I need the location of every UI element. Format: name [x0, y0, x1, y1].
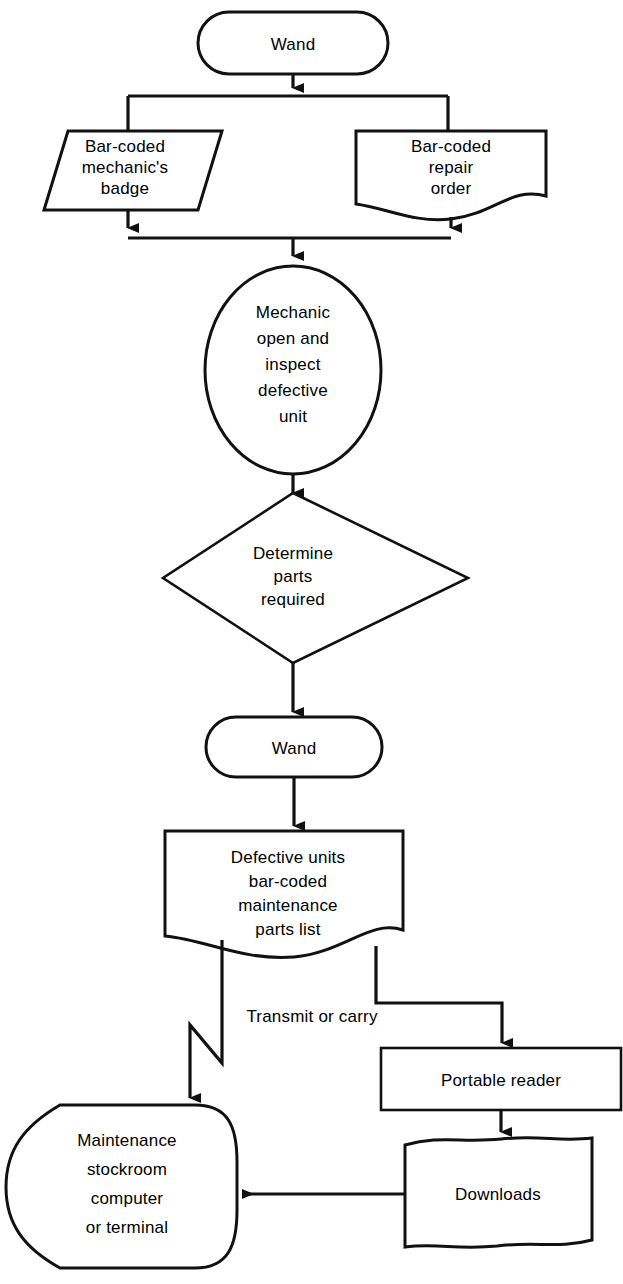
- badge-label-line2: mechanic's: [82, 158, 169, 177]
- flowchart-svg: Wand Bar-coded mechanic's badge Bar-code…: [0, 0, 623, 1284]
- mechanic-label-line5: unit: [279, 407, 307, 426]
- wand-top-label: Wand: [271, 35, 316, 54]
- downloads-label: Downloads: [455, 1185, 541, 1204]
- node-barcoded-badge[interactable]: Bar-coded mechanic's badge: [44, 131, 222, 210]
- node-portable-reader[interactable]: Portable reader: [381, 1048, 621, 1110]
- repair-order-label-line1: Bar-coded: [411, 137, 491, 156]
- connector-merge-bar: [128, 238, 451, 256]
- node-determine-parts[interactable]: Determine parts required: [163, 493, 468, 663]
- node-wand-second[interactable]: Wand: [206, 717, 382, 777]
- mechanic-label-line1: Mechanic: [256, 303, 331, 322]
- node-barcoded-repair-order[interactable]: Bar-coded repair order: [356, 131, 546, 220]
- connector-split-bar-top: [128, 96, 448, 131]
- connector-parts-list-to-reader: [376, 946, 502, 1043]
- repair-order-label-line2: repair: [429, 158, 474, 177]
- node-wand-top[interactable]: Wand: [198, 12, 388, 74]
- parts-list-label-line4: parts list: [255, 920, 320, 939]
- wand-second-label: Wand: [272, 739, 317, 758]
- stockroom-shape: [6, 1105, 237, 1268]
- stockroom-label-line1: Maintenance: [77, 1131, 177, 1150]
- parts-list-label-line3: maintenance: [238, 896, 338, 915]
- stockroom-label-line3: computer: [91, 1189, 164, 1208]
- determine-label-line1: Determine: [253, 544, 333, 563]
- edge-label-transmit: Transmit or carry: [246, 1007, 378, 1026]
- node-downloads[interactable]: Downloads: [405, 1138, 592, 1248]
- connector-transmit-zigzag: [190, 940, 222, 1098]
- mechanic-label-line2: open and: [257, 329, 330, 348]
- determine-shape: [163, 493, 468, 663]
- stockroom-label-line2: stockroom: [87, 1160, 167, 1179]
- node-maintenance-stockroom[interactable]: Maintenance stockroom computer or termin…: [6, 1105, 237, 1268]
- flowchart-canvas: Wand Bar-coded mechanic's badge Bar-code…: [0, 0, 623, 1284]
- stockroom-label-line4: or terminal: [86, 1218, 169, 1237]
- determine-label-line3: required: [261, 590, 325, 609]
- parts-list-label-line1: Defective units: [231, 848, 346, 867]
- determine-label-line2: parts: [274, 567, 313, 586]
- parts-list-label-line2: bar-coded: [249, 872, 327, 891]
- portable-reader-label: Portable reader: [441, 1071, 561, 1090]
- mechanic-label-line3: inspect: [265, 355, 320, 374]
- repair-order-label-line3: order: [431, 179, 472, 198]
- badge-label-line1: Bar-coded: [85, 137, 165, 156]
- badge-label-line3: badge: [101, 179, 149, 198]
- node-parts-list[interactable]: Defective units bar-coded maintenance pa…: [165, 831, 403, 958]
- node-mechanic-inspect[interactable]: Mechanic open and inspect defective unit: [205, 266, 381, 474]
- mechanic-label-line4: defective: [258, 381, 328, 400]
